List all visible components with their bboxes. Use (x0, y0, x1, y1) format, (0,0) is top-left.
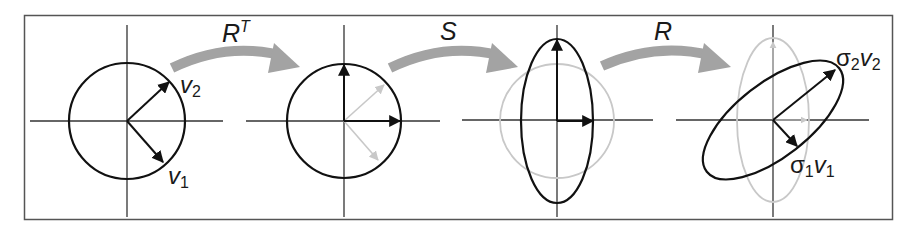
label-v2: v2 (180, 71, 201, 100)
faded-vector-v2 (344, 85, 384, 121)
transform-arrow-s (390, 43, 518, 73)
transform-label-rt: RT (222, 18, 251, 47)
label-v1: v1 (168, 162, 189, 191)
transform-arrow-rt (172, 43, 300, 73)
label-sigma2-v2: σ2v2 (836, 44, 881, 73)
transform-label-s: S (440, 17, 457, 45)
vector-v2 (127, 82, 169, 121)
vector-v1 (127, 121, 163, 162)
transform-arrow-r (602, 43, 731, 73)
transform-label-r: R (654, 17, 672, 45)
faded-vector-v1 (344, 121, 378, 160)
svd-diagram: RT S R v2 v1 (0, 0, 907, 230)
vector-sigma1-v1 (773, 120, 797, 146)
label-sigma1-v1: σ1v1 (790, 151, 835, 180)
